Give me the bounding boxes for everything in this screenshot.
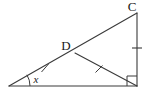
angle-arc-icon [27,75,30,86]
segment-cevian-DB [75,53,137,86]
vertex-label-d: D [61,38,70,53]
vertex-label-c: C [128,0,137,14]
angle-label-x: x [33,73,39,85]
tick-mark-DB-icon [96,66,103,73]
geometry-figure: C D x [0,0,151,95]
geometry-canvas: C D x [0,0,151,95]
segment-hypotenuse-AC [9,13,137,86]
